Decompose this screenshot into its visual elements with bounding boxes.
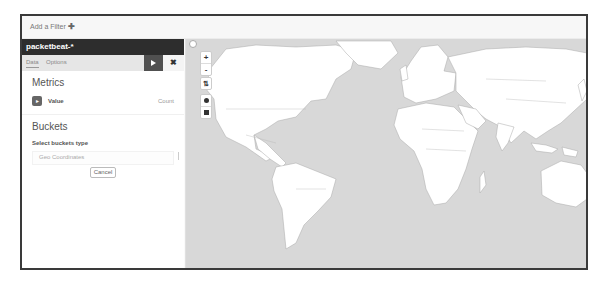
add-filter-button[interactable]: Add a Filter✚ (30, 22, 75, 31)
fit-bounds-control: ⇅ (200, 77, 212, 90)
world-map (186, 39, 587, 268)
sidebar-tabs: Data Options ✖ (22, 55, 184, 71)
close-icon: ✖ (170, 58, 177, 67)
buckets-title: Buckets (32, 121, 68, 132)
tab-data[interactable]: Data (26, 59, 39, 68)
loading-spinner-icon (189, 40, 197, 48)
zoom-out-button[interactable]: - (201, 63, 211, 75)
bucket-type-option[interactable]: Geo Coordinates (32, 151, 174, 165)
map-view[interactable]: + - ⇅ (185, 39, 587, 268)
fit-data-bounds-button[interactable]: ⇅ (201, 78, 211, 89)
select-buckets-label: Select buckets type (32, 140, 88, 146)
metrics-title: Metrics (32, 77, 64, 88)
add-filter-label: Add a Filter (30, 23, 66, 30)
draw-controls (200, 94, 212, 119)
apply-changes-button[interactable] (144, 55, 163, 71)
draw-rectangle-button[interactable] (201, 106, 211, 118)
zoom-in-button[interactable]: + (201, 52, 211, 63)
geo-coordinates-option[interactable]: Geo Coordinates (39, 154, 84, 160)
cancel-button[interactable]: Cancel (90, 167, 116, 178)
zoom-controls: + - (200, 51, 212, 76)
metric-agg-row[interactable]: ▸ Value Count (32, 96, 174, 108)
discard-changes-button[interactable]: ✖ (163, 55, 184, 71)
metric-label: Value (48, 98, 64, 104)
section-divider (22, 114, 184, 115)
draw-circle-button[interactable] (201, 95, 211, 106)
filter-bar: Add a Filter✚ (22, 16, 586, 39)
plus-icon: ✚ (68, 22, 75, 31)
app-frame: Add a Filter✚ packetbeat-* Data Options … (20, 14, 588, 270)
scrollbar[interactable] (178, 152, 179, 160)
tab-options[interactable]: Options (46, 59, 67, 65)
visualization-sidebar: packetbeat-* Data Options ✖ Metrics ▸ Va… (22, 39, 184, 268)
metric-value: Count (158, 98, 174, 104)
editor-panel: Metrics ▸ Value Count Buckets Select buc… (22, 71, 184, 268)
index-pattern-title: packetbeat-* (22, 39, 184, 55)
expand-toggle-icon[interactable]: ▸ (32, 96, 42, 106)
